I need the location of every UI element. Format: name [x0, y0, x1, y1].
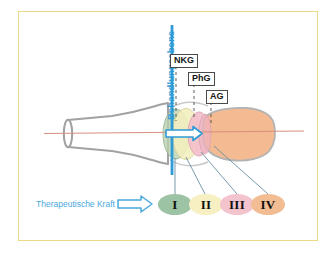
grade-key-iii: III — [220, 194, 254, 215]
abbr-ag: AG — [206, 90, 228, 104]
grade-iv-bone — [203, 108, 275, 161]
therapeutic-force-label: Therapeutische Kraft — [36, 199, 115, 209]
grade-key-ii: II — [189, 194, 223, 215]
abbr-nkg: NKG — [170, 54, 198, 68]
grade-key-i: I — [158, 194, 192, 215]
treatment-plane-label: Behandlungsebene — [165, 28, 179, 120]
grade-key-iv: IV — [251, 194, 285, 215]
therapeutic-force-arrow-icon — [118, 196, 152, 212]
leader-ii — [186, 157, 205, 194]
abbr-phg: PhG — [188, 72, 215, 86]
figure-page: Behandlungsebene NKG PhG AG Therapeutisc… — [0, 0, 336, 259]
